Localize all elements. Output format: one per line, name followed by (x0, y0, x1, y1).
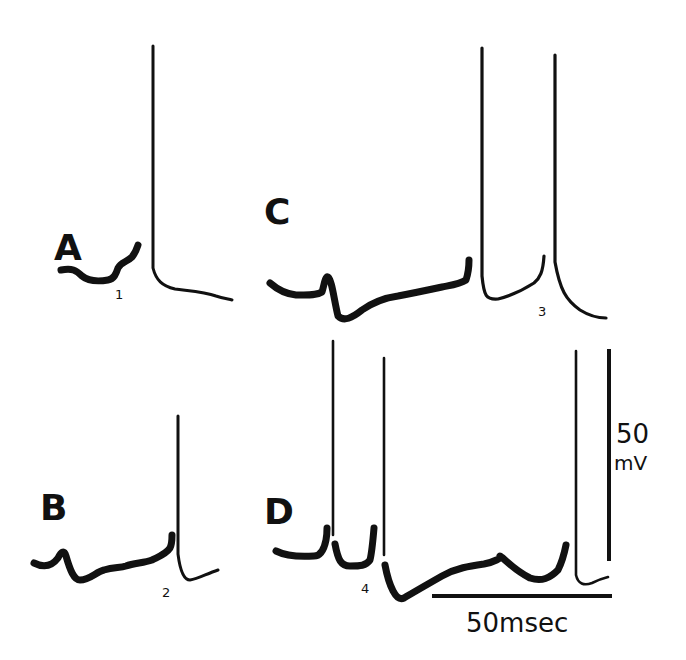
action-potential-figure: A 1 B 2 C 3 D 4 50 mV 50msec (0, 0, 686, 660)
panel-letter-b: B (40, 487, 67, 528)
panel-letter-a: A (54, 227, 82, 268)
trace-b-baseline (34, 535, 172, 580)
trace-b-spike (178, 416, 218, 580)
panel-d: D 4 (264, 341, 608, 599)
voltage-scale-value: 50 (616, 419, 649, 449)
panel-c: C 3 (264, 48, 606, 319)
panel-letter-c: C (264, 191, 290, 232)
panel-b: B 2 (34, 416, 218, 600)
trace-c-baseline (270, 260, 469, 319)
time-scale-label: 50msec (466, 608, 568, 638)
event-label-4: 4 (361, 581, 369, 596)
trace-c-spikes (482, 48, 606, 318)
trace-a-spike (153, 46, 232, 300)
scale-bars: 50 mV 50msec (432, 349, 649, 638)
event-label-2: 2 (162, 585, 170, 600)
event-label-1: 1 (115, 287, 123, 302)
trace-d-baseline (276, 528, 566, 599)
panel-letter-d: D (264, 491, 294, 532)
panel-a: A 1 (54, 46, 232, 302)
voltage-scale-unit: mV (614, 451, 647, 475)
event-label-3: 3 (538, 304, 546, 319)
